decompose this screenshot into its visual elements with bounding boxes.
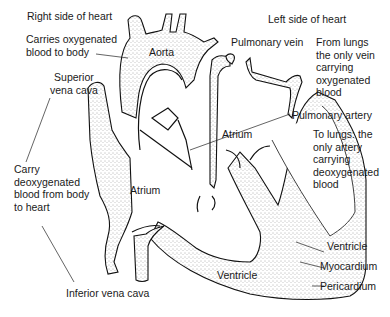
heart-diagram: Right side of heart Left side of heart C… bbox=[0, 0, 390, 317]
label-right-atrium: Atrium bbox=[130, 184, 160, 197]
semilunar-valve bbox=[152, 108, 178, 130]
aorta-inner-wall bbox=[138, 70, 182, 150]
label-aorta-note: Carries oxygenated blood to body bbox=[26, 33, 117, 58]
label-myocardium: Myocardium bbox=[320, 260, 377, 273]
label-pulmonary-artery-note: To lungs: the only artery carrying deoxy… bbox=[313, 128, 379, 191]
label-pulmonary-artery: Pulmonary artery bbox=[292, 109, 372, 122]
label-inferior-vena-cava: Inferior vena cava bbox=[66, 287, 149, 300]
label-aorta: Aorta bbox=[149, 46, 174, 59]
label-pericardium: Pericardium bbox=[320, 280, 376, 293]
label-superior-vena-cava: Superior vena cava bbox=[50, 71, 98, 96]
label-left-ventricle: Ventricle bbox=[327, 240, 367, 253]
label-vena-cava-note: Carry deoxygenated blood from body to he… bbox=[14, 163, 89, 213]
label-left-side: Left side of heart bbox=[268, 13, 346, 26]
aorta bbox=[120, 14, 218, 118]
label-right-ventricle: Ventricle bbox=[217, 269, 257, 282]
pulmonary-artery bbox=[210, 56, 230, 188]
leader-ivc bbox=[42, 226, 74, 282]
label-right-side: Right side of heart bbox=[27, 10, 112, 23]
leader-svc bbox=[26, 98, 50, 162]
label-left-atrium: Atrium bbox=[222, 128, 252, 141]
label-pulmonary-vein: Pulmonary vein bbox=[231, 36, 303, 49]
label-pulmonary-vein-note: From lungs the only vein carrying oxygen… bbox=[316, 36, 375, 99]
